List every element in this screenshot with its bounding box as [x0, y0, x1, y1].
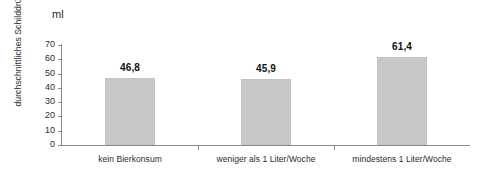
y-axis-tick-label: 50 [45, 68, 55, 79]
bar [241, 79, 291, 145]
x-axis-tick-mark [334, 146, 335, 150]
y-axis-tick: 50 [0, 74, 62, 75]
y-axis-tick: 60 [0, 59, 62, 60]
x-axis-category-label: mindestens 1 Liter/Woche [322, 154, 480, 164]
y-axis-tick: 70 [0, 45, 62, 46]
y-axis-tick: 20 [0, 116, 62, 117]
y-axis-tick-label: 0 [50, 139, 55, 150]
bar-value-label: 45,9 [226, 63, 306, 74]
x-axis-line [61, 145, 470, 146]
y-axis-tick: 30 [0, 102, 62, 103]
y-axis-tick-label: 30 [45, 96, 55, 107]
bar [105, 78, 155, 145]
y-axis-tick-label: 60 [45, 53, 55, 64]
y-axis-tick: 0 [0, 145, 62, 146]
y-axis-tick: 40 [0, 88, 62, 89]
y-axis-title: durchschnittliches Schilddrüsenvolumen [13, 0, 23, 107]
y-axis-tick-label: 70 [45, 39, 55, 50]
bar-value-label: 61,4 [362, 41, 442, 52]
y-axis-tick: 10 [0, 131, 62, 132]
y-axis-tick-label: 20 [45, 110, 55, 121]
y-axis-tick-label: 10 [45, 125, 55, 136]
y-axis-title-container: durchschnittliches Schilddrüsenvolumen [11, 0, 25, 99]
y-axis-tick-mark [58, 145, 62, 146]
y-axis-tick-label: 40 [45, 82, 55, 93]
bar [377, 57, 427, 145]
bar-chart: ml durchschnittliches Schilddrüsenvolume… [0, 0, 480, 190]
y-axis-unit-label: ml [52, 8, 64, 20]
plot-area [62, 45, 470, 145]
x-axis-tick-mark [198, 146, 199, 150]
bar-value-label: 46,8 [90, 62, 170, 73]
